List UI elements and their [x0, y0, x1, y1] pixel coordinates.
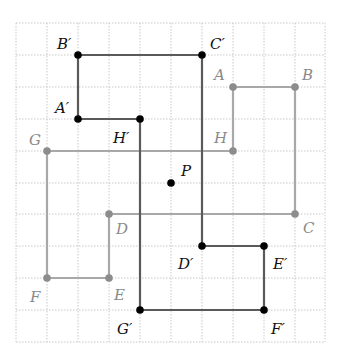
label-p: P [180, 162, 192, 180]
label-h: H [213, 129, 228, 147]
point-b [291, 83, 299, 91]
point-f-prime [260, 306, 268, 314]
label-e-prime: E′ [272, 255, 288, 273]
point-b-prime [74, 51, 82, 59]
label-a-prime: A′ [53, 99, 70, 117]
label-h-prime: H′ [112, 129, 130, 147]
point-g [43, 147, 51, 155]
point-f [43, 274, 51, 282]
point-d-prime [198, 242, 206, 250]
label-g-prime: G′ [117, 320, 133, 338]
label-g: G [29, 131, 41, 149]
point-e-prime [260, 242, 268, 250]
label-c-prime: C′ [210, 35, 225, 53]
label-e: E [113, 286, 125, 304]
label-d-prime: D′ [177, 255, 194, 273]
rotation-diagram: A B C D E F G H A′ B′ C′ D′ E′ F′ G′ H′ … [0, 0, 343, 364]
point-a [229, 83, 237, 91]
label-f: F [29, 288, 41, 306]
point-a-prime [74, 115, 82, 123]
label-f-prime: F′ [270, 320, 285, 338]
label-b: B [301, 66, 313, 84]
label-a: A [212, 66, 225, 84]
point-c-prime [198, 51, 206, 59]
label-c: C [303, 219, 315, 237]
point-h-prime [136, 115, 144, 123]
point-e [105, 274, 113, 282]
center-point-p [167, 179, 175, 187]
label-d: D [115, 220, 128, 238]
point-d [105, 210, 113, 218]
point-g-prime [136, 306, 144, 314]
label-b-prime: B′ [56, 35, 72, 53]
point-c [291, 210, 299, 218]
point-h [229, 147, 237, 155]
